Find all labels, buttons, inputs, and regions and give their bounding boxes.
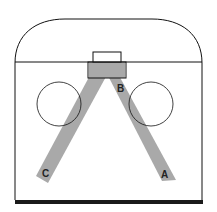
label-a: A (161, 169, 168, 180)
label-b: B (117, 83, 124, 94)
blue-line (15, 200, 203, 204)
label-c: C (42, 168, 49, 179)
lane-b-apex (89, 63, 125, 78)
goal-net (93, 52, 121, 62)
faceoff-circle-left (37, 82, 81, 126)
lane-c (36, 64, 108, 183)
faceoff-circle-right (129, 82, 173, 126)
rink-diagram: B C A (0, 0, 217, 212)
